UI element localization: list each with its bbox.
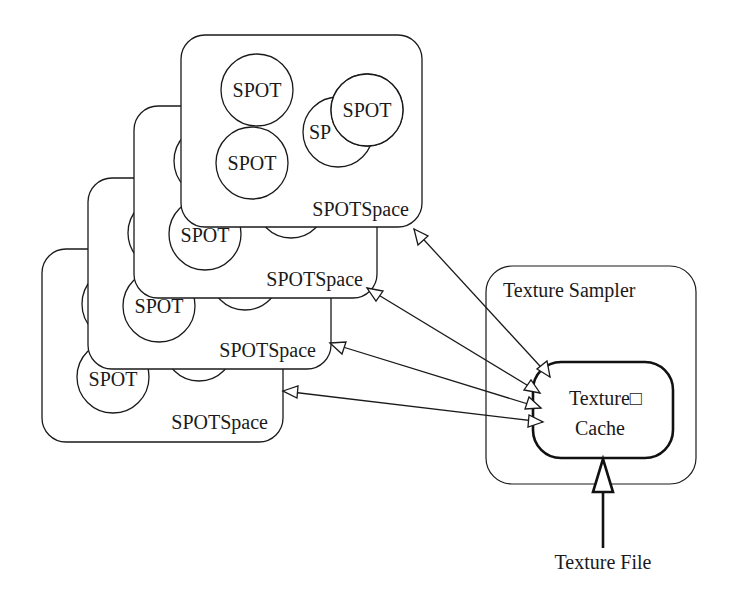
arrowhead-icon	[367, 288, 383, 301]
spot-label: SPOT	[135, 295, 184, 317]
spot-label-partial: SP	[309, 121, 331, 143]
arrowhead-icon	[283, 386, 298, 398]
arrowhead-icon	[330, 342, 346, 354]
spotspace-label: SPOTSpace	[312, 198, 409, 221]
texture-cache-label-line1: Texture□	[569, 387, 642, 409]
spot-label: SPOT	[343, 99, 392, 121]
diagram-canvas: SPOT SPOT SP SPOT SPOTSpace SPOT SPOTSpa…	[0, 0, 734, 596]
spot-label: SPOT	[89, 368, 138, 390]
spot-label: SPOT	[181, 224, 230, 246]
spotspace-label: SPOTSpace	[171, 411, 268, 434]
texture-file-label: Texture File	[555, 551, 652, 573]
spot-label: SPOT	[233, 79, 282, 101]
texture-sampler-label: Texture Sampler	[503, 279, 636, 302]
spot-label: SPOT	[228, 152, 277, 174]
texture-cache-label-line2: Cache	[575, 417, 625, 439]
texture-cache-box	[533, 362, 673, 458]
spotspace-label: SPOTSpace	[219, 339, 316, 362]
spotspace-label: SPOTSpace	[266, 268, 363, 291]
